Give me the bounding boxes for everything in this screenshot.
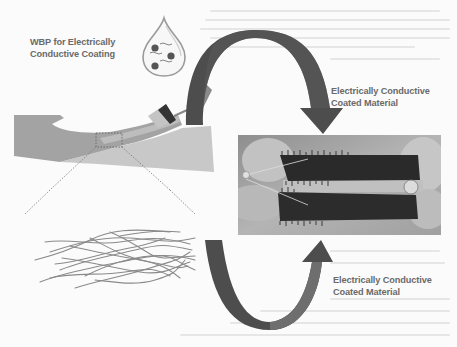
- bottom-arrow-label-line-1: Electrically Conductive: [333, 274, 432, 286]
- curved-arrow-up: [205, 240, 333, 330]
- wbp-label-line-1: WBP for Electrically: [30, 36, 115, 48]
- pin-right: [404, 180, 418, 194]
- bottom-arrow-label-line-2: Coated Material: [333, 286, 432, 298]
- top-arrow-label: Electrically Conductive Coated Material: [331, 85, 430, 109]
- photo-content: [238, 135, 441, 235]
- bottom-arrow-label: Electrically Conductive Coated Material: [333, 274, 432, 298]
- coated-strip-bottom: [278, 192, 418, 221]
- coated-strip-top: [280, 155, 420, 181]
- top-arrow-label-line-1: Electrically Conductive: [331, 85, 430, 97]
- pin-left: [243, 172, 250, 179]
- substrate-strip: [14, 115, 214, 172]
- wbp-label: WBP for Electrically Conductive Coating: [30, 36, 115, 60]
- fiber-network: [35, 230, 195, 288]
- water-droplet-icon: [143, 18, 185, 76]
- coated-material-photo: [238, 135, 441, 235]
- wbp-label-line-2: Conductive Coating: [30, 48, 115, 60]
- curved-arrow-down: [186, 30, 343, 134]
- top-arrow-label-line-2: Coated Material: [331, 97, 430, 109]
